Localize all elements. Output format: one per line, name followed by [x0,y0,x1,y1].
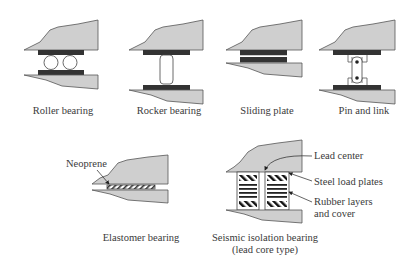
elastomer-bearing-label: Elastomer bearing [98,232,184,244]
rocker-bearing-figure [129,20,203,104]
bearing-types-diagram [0,0,417,267]
sliding-plate-label: Sliding plate [235,105,299,117]
pin-and-link-label: Pin and link [333,105,395,117]
sliding-plate-figure [226,20,302,77]
pin-and-link-figure [319,20,395,104]
and-cover-callout: and cover [314,208,355,220]
neoprene-callout: Neoprene [66,158,107,170]
rubber-layers-callout: Rubber layers [314,196,373,208]
rocker-bearing-label: Rocker bearing [131,105,207,117]
steel-load-plates-callout: Steel load plates [314,176,383,188]
roller-bearing-figure [24,20,98,89]
seismic-bearing-label: Seismic isolation bearing [205,232,325,244]
seismic-bearing-figure [226,140,312,223]
lead-center-callout: Lead center [314,150,363,162]
seismic-bearing-sublabel: (lead core type) [205,244,325,256]
roller-bearing-label: Roller bearing [28,105,98,117]
